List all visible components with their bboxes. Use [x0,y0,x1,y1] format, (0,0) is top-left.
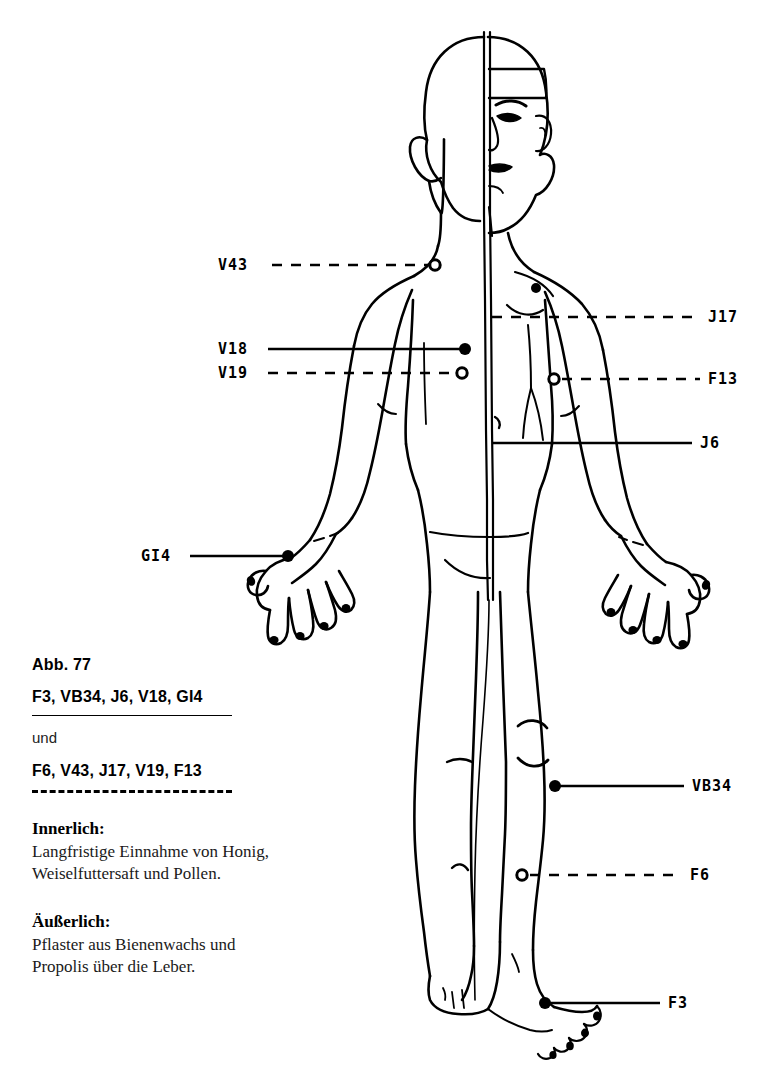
point-label-v18[interactable]: V18 [218,342,248,357]
leader-gi4 [190,550,294,562]
section-innerlich: Innerlich: Langfristige Einnahme von Hon… [32,819,332,886]
section-heading-innerlich: Innerlich: [32,819,332,839]
legs [414,592,601,1059]
section-line-innerlich-2: Weiselfuttersaft und Pollen. [32,863,332,885]
leader-v19 [268,368,467,378]
left-arm-hand [245,404,396,644]
neck-shoulders [354,207,603,350]
point-label-f3[interactable]: F3 [668,996,688,1011]
leader-v43 [272,260,440,270]
section-line-innerlich-1: Langfristige Einnahme von Honig, [32,841,332,863]
leader-f13 [549,374,700,384]
point-label-j6[interactable]: J6 [700,436,720,451]
point-list-solid: F3, VB34, J6, V18, GI4 [32,688,332,706]
point-label-gi4[interactable]: GI4 [141,549,171,564]
point-label-f13[interactable]: F13 [708,372,738,387]
body-midline [474,32,493,1000]
head-back-half [410,37,484,246]
point-label-v43[interactable]: V43 [218,258,248,273]
torso [310,272,647,592]
head-front-half [488,37,554,233]
leader-v18 [268,343,471,355]
point-label-f6[interactable]: F6 [690,868,710,883]
section-heading-aeusserlich: Äußerlich: [32,912,332,932]
solid-line-legend [32,715,232,716]
figure-page: V43 V18 V19 GI4 J17 F13 J6 VB34 F6 F3 Ab… [0,0,776,1075]
leader-vb34 [549,780,684,792]
dashed-line-legend [32,790,232,793]
figure-number: Abb. 77 [32,656,332,674]
caption-block: Abb. 77 F3, VB34, J6, V18, GI4 und F6, V… [32,656,332,979]
point-list-dashed: F6, V43, J17, V19, F13 [32,762,332,780]
section-line-aeusserlich-2: Propolis über die Leber. [32,956,332,978]
point-label-j17[interactable]: J17 [708,310,738,325]
section-aeusserlich: Äußerlich: Pflaster aus Bienenwachs und … [32,912,332,979]
section-line-aeusserlich-1: Pflaster aus Bienenwachs und [32,934,332,956]
point-label-v19[interactable]: V19 [218,366,248,381]
conjunction-und: und [32,729,332,746]
leader-f6 [517,870,680,880]
point-label-vb34[interactable]: VB34 [692,779,732,794]
